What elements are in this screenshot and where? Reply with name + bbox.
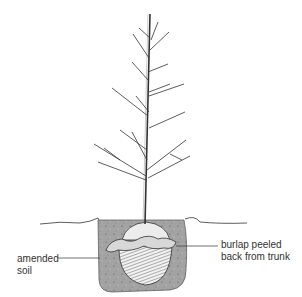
burlap-label: burlap peeled back from trunk [221,239,290,263]
amended-soil-label: amended soil [17,253,59,277]
tree-planting-diagram: amended soil burlap peeled back from tru… [0,0,302,297]
tree-branches [94,22,190,180]
tree-trunk [143,14,150,224]
